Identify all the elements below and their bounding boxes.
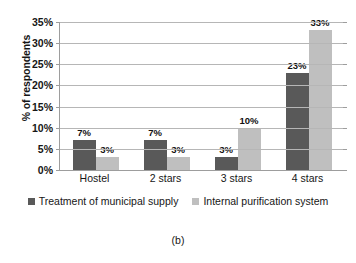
y-tick-label: 25%	[32, 58, 53, 70]
y-tick-label: 0%	[38, 164, 53, 176]
gridline	[60, 149, 343, 150]
y-axis-tickmark	[56, 107, 60, 108]
y-tick-label: 30%	[32, 37, 53, 49]
y-axis-tickmark-right	[343, 170, 347, 171]
bar-value-label: 7%	[148, 127, 162, 138]
gridline	[60, 107, 343, 108]
y-axis-tickmark	[56, 170, 60, 171]
y-tick-label: 35%	[32, 16, 53, 28]
legend-item[interactable]: Treatment of municipal supply	[28, 195, 179, 207]
bar	[96, 157, 119, 170]
bar-chart: % of respondents 0%5%10%15%20%25%30%35% …	[0, 0, 356, 192]
legend-item[interactable]: Internal purification system	[192, 195, 328, 207]
x-tick-label: 3 stars	[221, 172, 253, 184]
x-tick-label: 2 stars	[150, 172, 182, 184]
legend-label: Internal purification system	[203, 195, 328, 207]
bars-layer: 7%3%7%3%3%10%23%33%	[60, 22, 343, 170]
y-tick-label: 10%	[32, 122, 53, 134]
y-axis-tickmark-right	[343, 107, 347, 108]
y-axis-tickmark	[56, 64, 60, 65]
gridline	[60, 43, 343, 44]
bar	[286, 73, 309, 170]
legend-label: Treatment of municipal supply	[39, 195, 179, 207]
x-tick-label: Hostel	[80, 172, 110, 184]
bar	[167, 157, 190, 170]
y-axis-tickmark	[56, 128, 60, 129]
gridline	[60, 170, 343, 171]
y-tick-label: 15%	[32, 101, 53, 113]
figure-caption: (b)	[0, 234, 356, 246]
bar	[144, 140, 167, 170]
y-axis-tickmark-right	[343, 64, 347, 65]
x-axis-tick-labels: Hostel2 stars3 stars4 stars	[59, 172, 343, 190]
figure-panel-b: % of respondents 0%5%10%15%20%25%30%35% …	[0, 0, 356, 263]
y-axis-tick-labels: 0%5%10%15%20%25%30%35%	[16, 16, 56, 172]
y-axis-tickmark	[56, 43, 60, 44]
plot-area: 7%3%7%3%3%10%23%33%	[59, 22, 343, 170]
y-axis-tickmark	[56, 149, 60, 150]
bar-value-label: 7%	[77, 127, 91, 138]
chart-legend: Treatment of municipal supplyInternal pu…	[0, 195, 356, 207]
gridline	[60, 85, 343, 86]
y-axis-tickmark-right	[343, 128, 347, 129]
bar	[215, 157, 238, 170]
y-tick-label: 20%	[32, 79, 53, 91]
legend-swatch-icon	[28, 198, 35, 205]
y-tick-label: 5%	[38, 143, 53, 155]
y-axis-tickmark-right	[343, 43, 347, 44]
gridline	[60, 64, 343, 65]
y-axis-tickmark-right	[343, 22, 347, 23]
gridline	[60, 22, 343, 23]
x-tick-label: 4 stars	[292, 172, 324, 184]
bar-value-label: 10%	[239, 115, 258, 126]
y-axis-tickmark	[56, 85, 60, 86]
y-axis-tickmark	[56, 22, 60, 23]
y-axis-tickmark-right	[343, 85, 347, 86]
gridline	[60, 128, 343, 129]
legend-swatch-icon	[192, 198, 199, 205]
y-axis-tickmark-right	[343, 149, 347, 150]
bar	[73, 140, 96, 170]
